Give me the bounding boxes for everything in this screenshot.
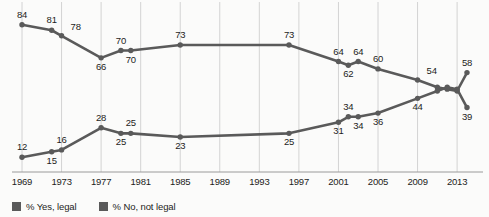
data-point bbox=[286, 131, 291, 136]
data-value-label: 12 bbox=[17, 141, 27, 152]
data-point bbox=[375, 66, 380, 71]
data-value-label: 70 bbox=[116, 35, 126, 46]
legend-label: % Yes, legal bbox=[26, 201, 77, 212]
data-value-label: 16 bbox=[56, 134, 66, 145]
data-point bbox=[415, 77, 420, 82]
data-point bbox=[375, 110, 380, 115]
data-point bbox=[435, 88, 440, 93]
line-chart: 8481786670707373646264605458121516282525… bbox=[0, 0, 489, 217]
data-value-label: 81 bbox=[47, 14, 57, 25]
x-tick-label: 2009 bbox=[407, 176, 427, 187]
data-value-label: 64 bbox=[353, 46, 363, 57]
x-tick-label: 1989 bbox=[210, 176, 230, 187]
data-value-label: 54 bbox=[427, 65, 437, 76]
data-value-label: 25 bbox=[116, 136, 126, 147]
x-tick-label: 2005 bbox=[368, 176, 388, 187]
x-tick-label: 1993 bbox=[249, 176, 269, 187]
chart-svg: 8481786670707373646264605458121516282525… bbox=[0, 0, 489, 180]
x-tick-label: 1973 bbox=[51, 176, 71, 187]
data-point bbox=[336, 120, 341, 125]
data-point bbox=[464, 70, 469, 75]
series-0 bbox=[19, 22, 469, 94]
data-value-label: 28 bbox=[96, 112, 106, 123]
data-point bbox=[178, 134, 183, 139]
data-point bbox=[346, 114, 351, 119]
data-point bbox=[128, 131, 133, 136]
data-point bbox=[415, 96, 420, 101]
legend-item-1[interactable]: % No, not legal bbox=[99, 201, 176, 212]
data-value-label: 23 bbox=[175, 140, 185, 151]
data-point bbox=[346, 63, 351, 68]
data-value-label: 44 bbox=[412, 101, 422, 112]
data-point bbox=[336, 59, 341, 64]
series-1 bbox=[19, 85, 469, 160]
data-value-label: 36 bbox=[373, 116, 383, 127]
gridlines bbox=[22, 2, 457, 172]
data-point bbox=[19, 22, 24, 27]
data-point bbox=[59, 33, 64, 38]
data-point bbox=[286, 42, 291, 47]
data-value-label: 70 bbox=[126, 54, 136, 65]
x-tick-label: 2013 bbox=[447, 176, 467, 187]
data-point bbox=[356, 114, 361, 119]
legend-swatch-icon bbox=[12, 202, 21, 211]
data-point bbox=[98, 125, 103, 130]
x-tick-label: 1977 bbox=[91, 176, 111, 187]
data-value-label: 78 bbox=[71, 21, 81, 32]
data-value-label: 62 bbox=[343, 68, 353, 79]
x-tick-label: 1985 bbox=[170, 176, 190, 187]
series-1-value-labels: 1215162825252325313434364439 bbox=[17, 101, 472, 166]
data-point bbox=[49, 149, 54, 154]
data-point bbox=[59, 147, 64, 152]
data-value-label: 73 bbox=[175, 29, 185, 40]
legend-label: % No, not legal bbox=[113, 201, 176, 212]
data-point bbox=[19, 155, 24, 160]
data-point bbox=[178, 42, 183, 47]
x-tick-label: 1981 bbox=[130, 176, 150, 187]
data-value-label: 25 bbox=[284, 136, 294, 147]
data-point bbox=[49, 28, 54, 33]
x-tick-label: 1969 bbox=[12, 176, 32, 187]
chart-legend: % Yes, legal% No, not legal bbox=[0, 196, 489, 216]
legend-swatch-icon bbox=[99, 202, 108, 211]
data-value-label: 31 bbox=[333, 125, 343, 136]
data-value-label: 25 bbox=[126, 117, 136, 128]
data-point bbox=[118, 131, 123, 136]
data-point bbox=[445, 85, 450, 90]
x-axis-tick-labels: 1969197319771981198519891993199720012005… bbox=[0, 176, 489, 194]
data-value-label: 73 bbox=[284, 29, 294, 40]
data-point bbox=[356, 59, 361, 64]
x-tick-label: 2001 bbox=[328, 176, 348, 187]
data-value-label: 39 bbox=[462, 111, 472, 122]
legend-item-0[interactable]: % Yes, legal bbox=[12, 201, 77, 212]
data-value-label: 15 bbox=[47, 155, 57, 166]
series-line bbox=[22, 25, 467, 91]
data-value-label: 34 bbox=[343, 101, 353, 112]
data-value-label: 34 bbox=[353, 120, 363, 131]
data-point bbox=[118, 48, 123, 53]
data-value-label: 84 bbox=[17, 9, 27, 20]
x-tick-label: 1997 bbox=[289, 176, 309, 187]
data-point bbox=[454, 86, 459, 91]
data-point bbox=[98, 55, 103, 60]
data-point bbox=[128, 48, 133, 53]
data-point bbox=[464, 105, 469, 110]
data-value-label: 64 bbox=[333, 46, 343, 57]
series-line bbox=[22, 87, 467, 157]
data-value-label: 66 bbox=[96, 61, 106, 72]
data-value-label: 58 bbox=[462, 57, 472, 68]
plot-area: 8481786670707373646264605458121516282525… bbox=[0, 0, 489, 180]
data-value-label: 60 bbox=[373, 53, 383, 64]
